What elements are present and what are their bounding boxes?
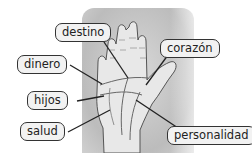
label-corazon: corazón: [160, 39, 220, 58]
label-salud: salud: [20, 122, 65, 141]
label-personalidad: personalidad: [167, 126, 252, 145]
label-dinero: dinero: [17, 55, 67, 74]
label-destino: destino: [55, 23, 111, 42]
label-hijos: hijos: [27, 91, 68, 110]
